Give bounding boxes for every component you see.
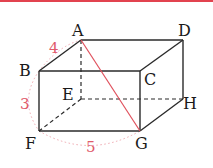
arc-bf — [29, 71, 40, 131]
edge-gh — [140, 99, 183, 131]
label-a: A — [71, 21, 84, 40]
label-b: B — [19, 61, 31, 80]
label-h: H — [183, 94, 197, 113]
label-f: F — [25, 134, 36, 153]
label-c: C — [144, 70, 156, 89]
prism-diagram: A D B C E H F G 4 3 5 — [0, 0, 213, 168]
edge-ab — [39, 40, 81, 71]
edge-ef — [39, 99, 81, 131]
measure-fg: 5 — [86, 138, 96, 156]
measure-bf: 3 — [20, 95, 30, 113]
label-g: G — [135, 134, 148, 153]
label-d: D — [178, 21, 191, 40]
diagonal-ag — [81, 40, 140, 131]
label-e: E — [62, 85, 74, 104]
edge-dc — [140, 40, 183, 71]
measure-ab: 4 — [49, 39, 59, 57]
